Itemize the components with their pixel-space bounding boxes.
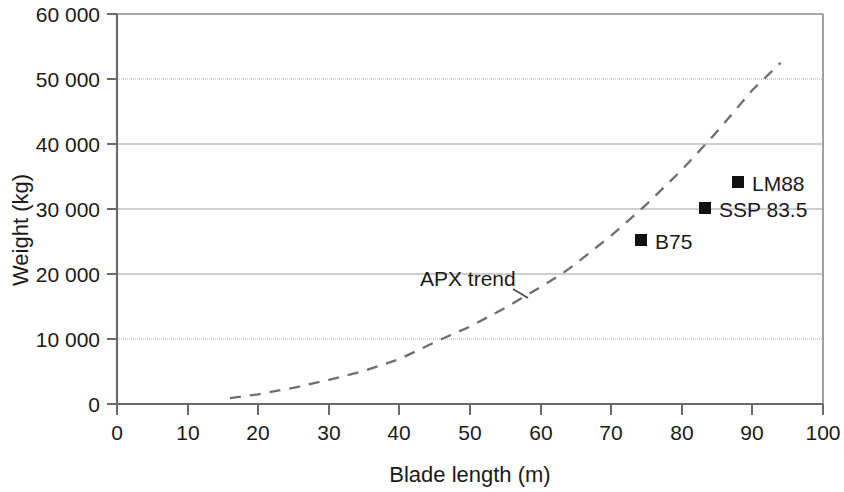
x-tick-label: 60 bbox=[529, 421, 552, 444]
marker-square-icon bbox=[635, 234, 647, 246]
y-tick-label: 10 000 bbox=[36, 328, 100, 351]
marker-square-icon bbox=[732, 176, 744, 188]
x-tick-labels: 0 10 20 30 40 50 60 70 80 90 100 bbox=[111, 421, 840, 444]
data-point-label: LM88 bbox=[752, 172, 805, 195]
x-tick-label: 50 bbox=[458, 421, 481, 444]
data-point-label: SSP 83.5 bbox=[719, 198, 807, 221]
data-point-label: B75 bbox=[655, 230, 692, 253]
weight-vs-blade-length-chart: 60 000 50 000 40 000 30 000 20 000 10 00… bbox=[0, 0, 844, 492]
marker-square-icon bbox=[699, 202, 711, 214]
y-tick-label: 20 000 bbox=[36, 263, 100, 286]
x-axis bbox=[117, 404, 823, 415]
x-tick-label: 90 bbox=[740, 421, 763, 444]
x-tick-label: 70 bbox=[599, 421, 622, 444]
x-tick-label: 10 bbox=[176, 421, 199, 444]
y-axis-title: Weight (kg) bbox=[8, 174, 33, 286]
y-tick-label: 30 000 bbox=[36, 198, 100, 221]
y-axis bbox=[107, 14, 117, 404]
y-tick-labels: 60 000 50 000 40 000 30 000 20 000 10 00… bbox=[36, 3, 100, 416]
x-tick-label: 0 bbox=[111, 421, 123, 444]
x-tick-label: 40 bbox=[387, 421, 410, 444]
y-tick-label: 60 000 bbox=[36, 3, 100, 26]
y-tick-label: 40 000 bbox=[36, 133, 100, 156]
x-axis-title: Blade length (m) bbox=[389, 462, 550, 487]
x-tick-label: 100 bbox=[805, 421, 840, 444]
apx-trend-annotation-label: APX trend bbox=[420, 267, 516, 290]
x-tick-label: 30 bbox=[317, 421, 340, 444]
x-tick-label: 80 bbox=[670, 421, 693, 444]
y-tick-label: 50 000 bbox=[36, 68, 100, 91]
y-tick-label: 0 bbox=[88, 393, 100, 416]
x-tick-label: 20 bbox=[246, 421, 269, 444]
chart-container: 60 000 50 000 40 000 30 000 20 000 10 00… bbox=[0, 0, 844, 492]
